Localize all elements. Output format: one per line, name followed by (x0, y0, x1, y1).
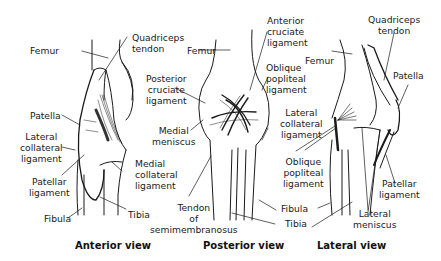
label-anterior-femur: Femur (30, 45, 59, 56)
label-anterior-tibia: Tibia (128, 209, 150, 220)
label-lateral-lateral-meniscus: Lateral meniscus (353, 208, 396, 230)
label-posterior-anterior-cruciate-ligament: Anterior cruciate ligament (267, 15, 308, 48)
label-lateral-femur: Femur (305, 55, 334, 66)
label-posterior-tibia: Tibia (285, 218, 307, 229)
posterior-knee-drawing (199, 30, 269, 220)
label-posterior-oblique-popliteal-ligament: Oblique popliteal ligament (266, 62, 307, 95)
label-anterior-lateral-collateral-ligament: Lateral collateral ligament (20, 131, 63, 164)
caption-posterior-view: Posterior view (203, 240, 284, 251)
label-lateral-patellar-ligament: Patellar ligament (379, 178, 420, 200)
label-anterior-medial-collateral-ligament: Medial collateral ligament (135, 158, 178, 191)
anterior-knee-drawing (77, 40, 133, 215)
label-posterior-posterior-cruciate-ligament: Posterior cruciate ligament (146, 73, 187, 106)
label-posterior-tendon-of-semimembranosus: Tendon of semimembranosus (150, 202, 238, 235)
caption-anterior-view: Anterior view (75, 240, 151, 251)
label-posterior-medial-meniscus: Medial meniscus (152, 125, 195, 147)
label-posterior-fibula: Fibula (281, 203, 308, 214)
caption-lateral-view: Lateral view (317, 240, 386, 251)
label-posterior-lateral-collateral-ligament: Lateral collateral ligament (280, 107, 323, 140)
label-anterior-fibula: Fibula (44, 213, 71, 224)
label-lateral-quadriceps-tendon: Quadriceps tendon (368, 14, 420, 36)
label-anterior-quadriceps-tendon: Quadriceps tendon (132, 32, 184, 54)
label-posterior-femur: Femur (187, 45, 216, 56)
label-anterior-patellar-ligament: Patellar ligament (29, 176, 70, 198)
label-lateral-oblique-popliteal-ligament: Oblique popliteal ligament (283, 156, 324, 189)
label-lateral-patella: Patella (393, 70, 424, 81)
label-anterior-patella: Patella (30, 110, 61, 121)
leader-lines (62, 32, 408, 227)
